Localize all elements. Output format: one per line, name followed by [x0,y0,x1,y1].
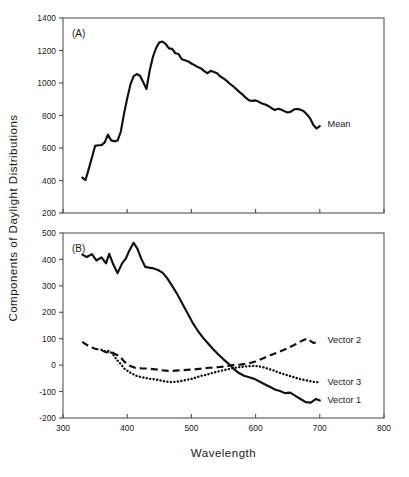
x-tick-label-300: 300 [56,423,70,433]
curve-vector-2 [82,339,320,371]
series-label-vector-2: Vector 2 [328,335,362,345]
curve-vector-3 [102,350,320,383]
y-tick-label-b--100: -100 [39,387,56,397]
y-tick-label-a-800: 800 [42,111,56,121]
curve-mean [82,42,320,181]
series-label-vector-3: Vector 3 [328,377,362,387]
plot-frame-a [63,18,384,213]
y-tick-label-b-300: 300 [42,281,56,291]
x-tick-label-800: 800 [377,423,391,433]
x-axis-title: Wavelength [191,447,256,459]
x-tick-label-700: 700 [313,423,327,433]
panel-tag-b: (B) [72,243,85,254]
y-tick-label-b-100: 100 [42,334,56,344]
y-tick-label-b--200: -200 [39,413,56,423]
panel-tag-a: (A) [72,28,85,39]
y-axis-title: Components of Daylight Distributions [7,114,19,321]
x-tick-label-400: 400 [120,423,134,433]
y-tick-label-b-0: 0 [51,360,56,370]
y-tick-label-a-1200: 1200 [37,46,56,56]
series-label-mean: Mean [328,119,351,129]
daylight-components-figure: 200400600800100012001400(A)-200-10001002… [0,0,409,477]
y-tick-label-a-200: 200 [42,208,56,218]
curve-vector-1 [82,243,320,403]
y-tick-label-b-500: 500 [42,228,56,238]
y-tick-label-a-400: 400 [42,176,56,186]
series-label-vector-1: Vector 1 [328,395,362,405]
x-tick-label-600: 600 [249,423,263,433]
y-tick-label-b-400: 400 [42,255,56,265]
y-tick-label-a-600: 600 [42,143,56,153]
x-tick-label-500: 500 [184,423,198,433]
chart-svg: 200400600800100012001400(A)-200-10001002… [0,0,409,477]
y-tick-label-b-200: 200 [42,307,56,317]
y-tick-label-a-1400: 1400 [37,13,56,23]
y-tick-label-a-1000: 1000 [37,78,56,88]
